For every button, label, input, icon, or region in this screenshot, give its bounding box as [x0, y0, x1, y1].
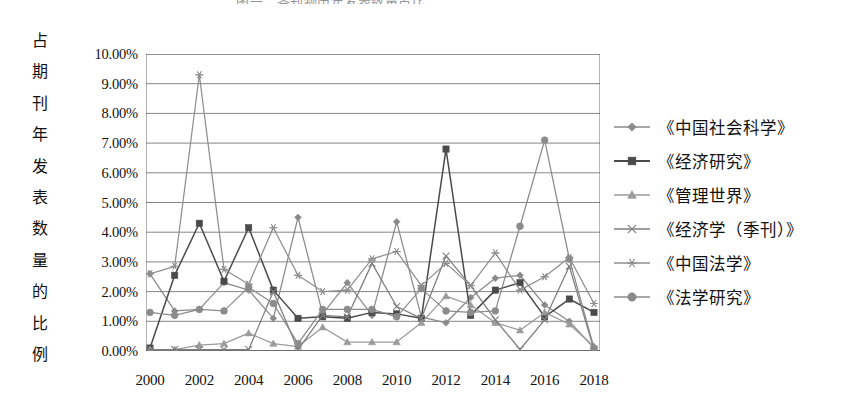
y-axis-title-char: 比: [32, 316, 48, 332]
data-point-marker-square: [591, 309, 597, 315]
data-point-marker-circle: [566, 256, 573, 263]
figure-title-fragment: 图一 各刊物历年发表数量占比: [236, 0, 626, 4]
data-point-marker-x: [393, 303, 400, 310]
legend-label: 《中国法学》: [658, 251, 760, 275]
data-point-marker-circle: [270, 300, 277, 307]
data-point-marker-circle: [171, 312, 178, 319]
legend-label: 《法学研究》: [658, 285, 760, 309]
data-point-marker-circle: [628, 293, 636, 301]
data-point-marker-circle: [541, 137, 548, 144]
y-axis-title-char: 占: [32, 33, 48, 49]
y-axis-title-char: 例: [32, 347, 48, 363]
data-point-marker-circle: [418, 285, 425, 292]
legend-item-3[interactable]: 《管理世界》: [612, 184, 852, 206]
series-line: [150, 75, 594, 304]
legend-item-2[interactable]: 《经济研究》: [612, 150, 852, 172]
legend-key-asterisk-icon: [612, 255, 652, 271]
data-point-marker-circle: [344, 306, 351, 313]
data-point-marker-circle: [591, 345, 598, 351]
legend-key-circle-icon: [612, 289, 652, 305]
legend-item-1[interactable]: 《中国社会科学》: [612, 116, 852, 138]
data-point-marker-asterisk: [269, 224, 277, 231]
y-axis-title-char: 数: [32, 221, 48, 237]
series-3: [146, 292, 597, 351]
data-point-marker-circle: [492, 308, 499, 315]
y-tick-label: 3.00%: [102, 253, 138, 270]
x-tick-label: 2018: [579, 372, 608, 389]
y-tick-label: 0.00%: [102, 343, 138, 360]
data-point-marker-square: [221, 278, 227, 284]
data-point-marker-diamond: [393, 218, 400, 225]
figure-root: 图一 各刊物历年发表数量占比 占期刊年发表数量的比例 0.00%1.00%2.0…: [0, 0, 861, 414]
y-axis-tick-labels: 0.00%1.00%2.00%3.00%4.00%5.00%6.00%7.00%…: [52, 44, 142, 364]
data-point-marker-circle: [319, 306, 326, 313]
data-point-marker-asterisk: [393, 248, 401, 255]
y-axis-title-char: 刊: [32, 96, 48, 112]
data-point-marker-square: [628, 157, 636, 165]
legend-label: 《经济学（季刊）》: [658, 217, 803, 241]
series-line: [150, 256, 594, 350]
x-tick-label: 2006: [283, 372, 312, 389]
data-point-marker-square: [295, 315, 301, 321]
y-tick-label: 4.00%: [102, 224, 138, 241]
y-tick-label: 8.00%: [102, 105, 138, 122]
data-point-marker-circle: [443, 308, 450, 315]
series-2: [147, 146, 597, 351]
y-tick-label: 7.00%: [102, 135, 138, 152]
data-point-marker-asterisk: [627, 259, 637, 267]
data-point-marker-square: [246, 225, 252, 231]
data-point-marker-x: [221, 346, 228, 351]
legend-label: 《经济研究》: [658, 149, 760, 173]
x-tick-label: 2012: [431, 372, 460, 389]
legend-item-6[interactable]: 《法学研究》: [612, 286, 852, 308]
data-point-marker-circle: [221, 308, 228, 315]
y-axis-title-char: 发: [32, 159, 48, 175]
y-axis-title-char: 年: [32, 127, 48, 143]
y-axis-title-char: 表: [32, 190, 48, 206]
data-point-marker-triangle: [442, 292, 449, 298]
y-tick-label: 10.00%: [94, 46, 138, 63]
data-point-marker-diamond: [295, 214, 302, 221]
line-chart-svg: [146, 54, 600, 351]
y-tick-label: 9.00%: [102, 75, 138, 92]
y-axis-title-char: 量: [32, 253, 48, 269]
y-tick-label: 6.00%: [102, 164, 138, 181]
x-tick-label: 2004: [234, 372, 263, 389]
data-point-marker-triangle: [245, 330, 252, 336]
y-axis-title: 占期刊年发表数量的比例: [28, 33, 52, 363]
data-point-marker-asterisk: [590, 300, 598, 307]
series-1: [147, 214, 598, 351]
data-point-marker-circle: [369, 306, 376, 313]
data-point-marker-circle: [393, 313, 400, 320]
data-point-marker-circle: [467, 309, 474, 316]
chart-legend: 《中国社会科学》《经济研究》《管理世界》《经济学（季刊）》《中国法学》《法学研究…: [612, 116, 852, 308]
y-tick-label: 5.00%: [102, 194, 138, 211]
data-point-marker-circle: [517, 223, 524, 230]
x-tick-label: 2008: [333, 372, 362, 389]
data-point-marker-square: [517, 280, 523, 286]
x-tick-label: 2010: [382, 372, 411, 389]
legend-label: 《管理世界》: [658, 183, 760, 207]
legend-label: 《中国社会科学》: [658, 115, 794, 139]
y-tick-label: 2.00%: [102, 283, 138, 300]
x-tick-label: 2016: [530, 372, 559, 389]
legend-item-5[interactable]: 《中国法学》: [612, 252, 852, 274]
data-point-marker-asterisk: [343, 287, 351, 294]
plot-area: [146, 54, 600, 351]
data-point-marker-diamond: [628, 123, 636, 131]
x-tick-label: 2014: [481, 372, 510, 389]
data-point-marker-circle: [196, 306, 203, 313]
data-point-marker-circle: [245, 284, 252, 291]
legend-key-square-icon: [612, 153, 652, 169]
y-tick-label: 1.00%: [102, 313, 138, 330]
data-point-marker-triangle: [319, 324, 326, 330]
legend-key-diamond-icon: [612, 119, 652, 135]
data-point-marker-square: [443, 146, 449, 152]
legend-item-4[interactable]: 《经济学（季刊）》: [612, 218, 852, 240]
x-tick-label: 2000: [135, 372, 164, 389]
series-4: [147, 253, 598, 351]
x-axis-tick-labels: 2000200220042006200820102012201420162018: [146, 358, 600, 398]
data-point-marker-circle: [295, 340, 302, 347]
y-axis-title-char: 期: [32, 64, 48, 80]
data-point-marker-circle: [147, 309, 154, 316]
